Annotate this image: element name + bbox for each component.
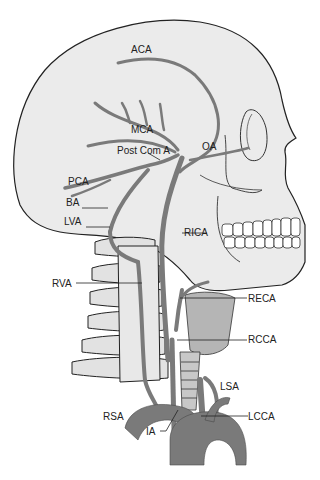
label-ba: BA <box>66 197 79 208</box>
lower-teeth <box>224 237 300 248</box>
label-lva: LVA <box>64 216 81 227</box>
label-aca: ACA <box>131 44 152 55</box>
label-rcca: RCCA <box>248 334 276 345</box>
cervical-spine <box>72 237 168 382</box>
label-pca: PCA <box>68 176 89 187</box>
label-oa: OA <box>202 141 216 152</box>
label-lsa: LSA <box>220 381 239 392</box>
label-mca: MCA <box>131 124 153 135</box>
label-rva: RVA <box>52 278 72 289</box>
label-rsa: RSA <box>103 411 124 422</box>
label-reca: RECA <box>248 293 276 304</box>
label-lcca: LCCA <box>248 411 275 422</box>
label-rica: RICA <box>184 227 208 238</box>
larynx-trachea <box>180 292 235 410</box>
artery-diagram <box>0 0 320 480</box>
label-ia: IA <box>146 426 155 437</box>
label-post-com-a: Post Com A <box>117 145 170 156</box>
